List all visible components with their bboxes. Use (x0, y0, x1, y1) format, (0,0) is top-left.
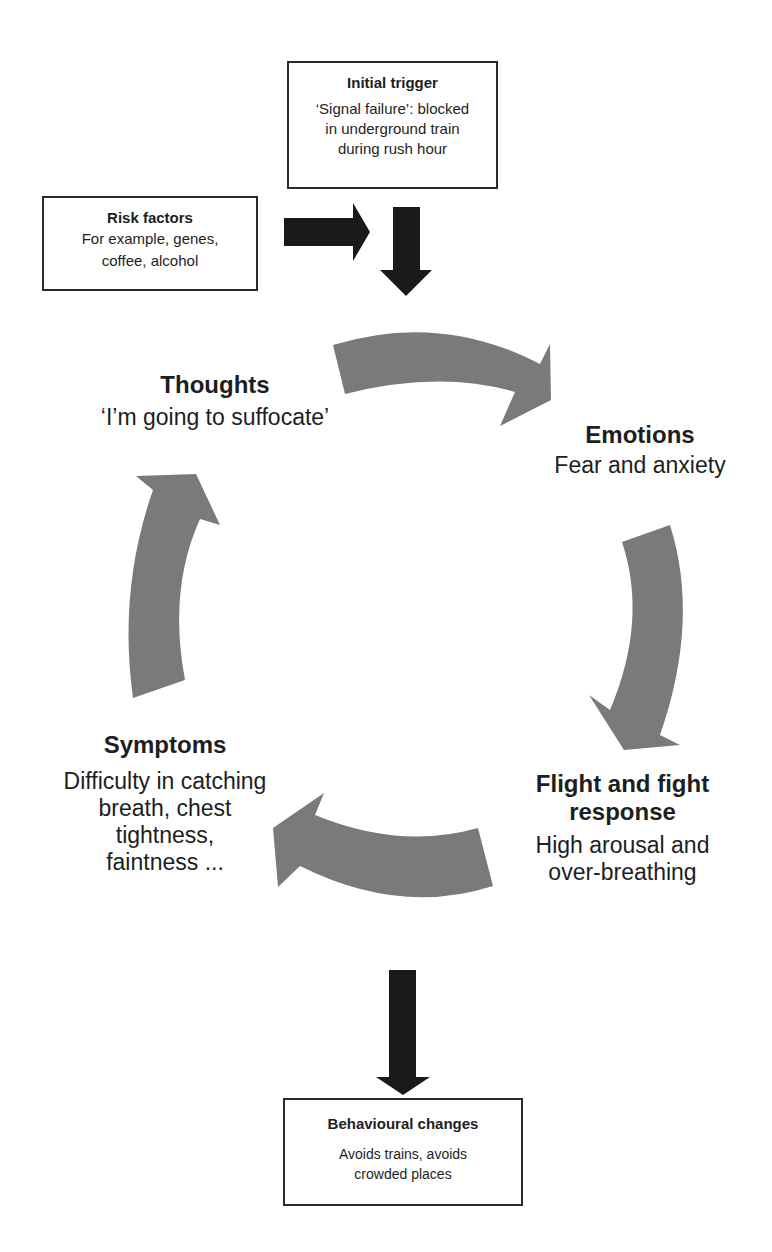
risk-factors-line-2: coffee, alcohol (44, 250, 256, 272)
flight-fight-desc-line-2: over-breathing (500, 859, 745, 886)
risk-to-trigger-arrow-icon (284, 203, 370, 261)
initial-trigger-line-2: in underground train (289, 119, 496, 139)
trigger-down-arrow-icon (380, 207, 432, 296)
symptoms-desc-line-3: tightness, (40, 822, 290, 849)
thoughts-title: Thoughts (60, 370, 370, 400)
node-thoughts: Thoughts ‘I’m going to suffocate’ (60, 370, 370, 431)
initial-trigger-line-1: ‘Signal failure’: blocked (289, 99, 496, 119)
node-symptoms: Symptoms Difficulty in catching breath, … (40, 730, 290, 876)
thoughts-desc: ‘I’m going to suffocate’ (60, 404, 370, 431)
initial-trigger-title: Initial trigger (289, 73, 496, 93)
behavioural-changes-line-2: crowded places (285, 1164, 521, 1184)
behavioural-changes-box: Behavioural changes Avoids trains, avoid… (283, 1098, 523, 1206)
cycle-arrow-emotions-to-flight-icon (589, 525, 683, 750)
initial-trigger-line-3: during rush hour (289, 139, 496, 159)
behavioural-changes-line-1: Avoids trains, avoids (285, 1144, 521, 1164)
flight-fight-title-line-2: response (500, 798, 745, 826)
behaviour-down-arrow-icon (376, 970, 430, 1095)
symptoms-desc-line-1: Difficulty in catching (40, 768, 290, 795)
node-flight-fight: Flight and fight response High arousal a… (500, 770, 745, 886)
behavioural-changes-title: Behavioural changes (285, 1114, 521, 1134)
symptoms-desc-line-2: breath, chest (40, 795, 290, 822)
symptoms-title: Symptoms (40, 730, 290, 760)
flight-fight-title-line-1: Flight and fight (500, 770, 745, 798)
risk-factors-title: Risk factors (44, 208, 256, 228)
node-emotions: Emotions Fear and anxiety (530, 420, 750, 479)
initial-trigger-box: Initial trigger ‘Signal failure’: blocke… (287, 61, 498, 189)
risk-factors-box: Risk factors For example, genes, coffee,… (42, 196, 258, 291)
cycle-arrow-flight-to-symptoms-icon (273, 793, 493, 897)
risk-factors-line-1: For example, genes, (44, 228, 256, 250)
emotions-desc: Fear and anxiety (530, 452, 750, 479)
symptoms-desc-line-4: faintness ... (40, 849, 290, 876)
cycle-arrow-symptoms-to-thoughts-icon (129, 474, 221, 698)
emotions-title: Emotions (530, 420, 750, 450)
flight-fight-desc-line-1: High arousal and (500, 832, 745, 859)
